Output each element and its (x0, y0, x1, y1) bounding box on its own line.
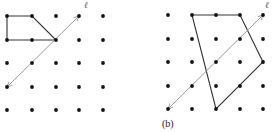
grid-dot (214, 13, 218, 17)
grid-dot (261, 13, 265, 17)
grid-dot (30, 61, 34, 65)
panel-b (166, 13, 265, 111)
grid-dot (101, 61, 105, 65)
grid-dot (30, 85, 34, 89)
grid-dot (101, 108, 105, 112)
grid-dot (214, 84, 218, 88)
grid-dot (214, 60, 218, 64)
grid-dot (30, 108, 34, 112)
grid-dot (77, 61, 81, 65)
grid-dot (166, 107, 170, 111)
grid-dot (190, 107, 194, 111)
grid-dot (261, 107, 265, 111)
grid-dot (54, 108, 58, 112)
grid-dot (238, 37, 242, 41)
grid-dot (190, 60, 194, 64)
grid-dot (54, 38, 58, 42)
grid-dot (77, 85, 81, 89)
grid-dot (166, 84, 170, 88)
grid-dot (77, 38, 81, 42)
grid-dot (238, 13, 242, 17)
grid-dot (5, 61, 9, 65)
grid-dot (261, 60, 265, 64)
grid-dot (166, 13, 170, 17)
grid-dot (261, 37, 265, 41)
panel-a (5, 14, 105, 112)
grid-dot (214, 107, 218, 111)
grid-dot (77, 14, 81, 18)
grid-dot (30, 38, 34, 42)
grid-dot (54, 14, 58, 18)
grid-dot (30, 14, 34, 18)
grid-dot (190, 13, 194, 17)
grid-dot (77, 108, 81, 112)
grid-dot (54, 85, 58, 89)
grid-dot (166, 37, 170, 41)
line-label-a: ℓ (84, 0, 88, 10)
polygon-shape (7, 16, 56, 40)
caption-b: (b) (162, 118, 174, 129)
reflection-diagram (0, 0, 274, 132)
polygon-shape (192, 15, 263, 109)
grid-dot (5, 85, 9, 89)
line-label-b: ℓ (265, 0, 269, 10)
grid-dot (190, 84, 194, 88)
grid-dot (101, 14, 105, 18)
grid-dot (238, 84, 242, 88)
grid-dot (238, 60, 242, 64)
grid-dot (5, 38, 9, 42)
grid-dot (5, 14, 9, 18)
grid-dot (238, 107, 242, 111)
grid-dot (214, 37, 218, 41)
grid-dot (166, 60, 170, 64)
grid-dot (5, 108, 9, 112)
grid-dot (54, 61, 58, 65)
grid-dot (101, 85, 105, 89)
grid-dot (101, 38, 105, 42)
grid-dot (261, 84, 265, 88)
grid-dot (190, 37, 194, 41)
